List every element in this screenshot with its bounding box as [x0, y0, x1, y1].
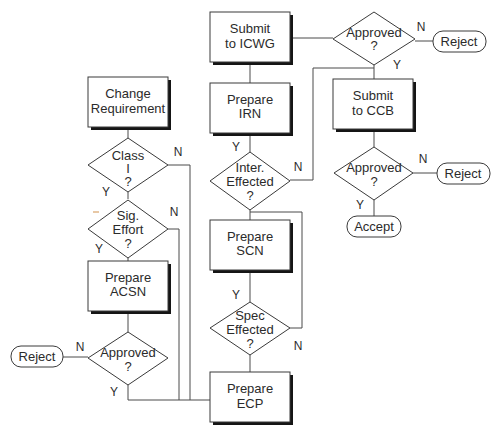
- svg-text:Approved: Approved: [346, 160, 402, 175]
- label-y-class: Y: [102, 185, 110, 199]
- svg-text:?: ?: [370, 174, 377, 189]
- svg-text:Submit: Submit: [353, 88, 394, 103]
- label-n-approved-acsn: N: [76, 340, 85, 354]
- svg-text:to CCB: to CCB: [352, 103, 394, 118]
- label-y-approved-acsn: Y: [110, 385, 118, 399]
- label-y-irn: Y: [232, 140, 240, 154]
- edge-sig-no: [168, 229, 179, 400]
- decision-approved-ccb: Approved ?: [334, 147, 413, 200]
- svg-text:Requirement: Requirement: [91, 101, 166, 116]
- svg-text:?: ?: [124, 174, 131, 189]
- label-n-approved-icwg: N: [417, 20, 426, 34]
- label-y-approved-icwg: Y: [393, 58, 401, 72]
- svg-text:Effected: Effected: [226, 322, 273, 337]
- decision-inter-effected: Inter. Effected ?: [210, 152, 290, 210]
- svg-text:ACSN: ACSN: [110, 284, 146, 299]
- svg-text:Submit: Submit: [230, 21, 271, 36]
- process-submit-ccb: Submit to CCB: [333, 79, 416, 132]
- svg-text:Sig.: Sig.: [117, 208, 139, 223]
- svg-text:Change: Change: [105, 86, 151, 101]
- label-y-approved-ccb: Y: [356, 198, 364, 212]
- svg-text:Effected: Effected: [226, 174, 273, 189]
- svg-text:Spec: Spec: [235, 308, 265, 323]
- svg-text:ECP: ECP: [237, 396, 264, 411]
- process-prepare-ecp: Prepare ECP: [210, 372, 293, 425]
- label-n-class: N: [174, 145, 183, 159]
- label-n-approved-ccb: N: [419, 152, 428, 166]
- svg-text:?: ?: [246, 188, 253, 203]
- terminal-reject-icwg: Reject: [433, 31, 486, 52]
- process-prepare-scn: Prepare SCN: [210, 220, 293, 273]
- svg-text:Prepare: Prepare: [105, 270, 151, 285]
- svg-text:IRN: IRN: [239, 106, 261, 121]
- process-change-requirement: Change Requirement: [88, 77, 171, 130]
- terminal-reject-ccb: Reject: [437, 163, 490, 184]
- svg-text:SCN: SCN: [236, 243, 263, 258]
- svg-text:Reject: Reject: [445, 166, 482, 181]
- process-prepare-acsn: Prepare ACSN: [88, 261, 171, 314]
- label-n-sig: N: [170, 205, 179, 219]
- svg-text:?: ?: [370, 38, 377, 53]
- svg-text:Prepare: Prepare: [227, 381, 273, 396]
- svg-text:Prepare: Prepare: [227, 229, 273, 244]
- svg-text:?: ?: [246, 336, 253, 351]
- svg-text:Accept: Accept: [354, 219, 394, 234]
- svg-text:Effort: Effort: [113, 222, 144, 237]
- decision-approved-acsn: Approved ?: [88, 332, 168, 385]
- svg-text:Inter.: Inter.: [236, 160, 265, 175]
- decision-class-i: Class I ?: [88, 138, 168, 192]
- edge-acsn-ecp: [128, 385, 210, 400]
- label-n-inter: N: [294, 160, 303, 174]
- flowchart: Submit to ICWG Submit to CCB Prepare IRN…: [0, 0, 499, 440]
- label-n-spec: N: [294, 339, 303, 353]
- svg-text:?: ?: [124, 236, 131, 251]
- svg-text:to ICWG: to ICWG: [225, 36, 275, 51]
- process-submit-icwg: Submit to ICWG: [210, 12, 293, 65]
- process-prepare-irn: Prepare IRN: [210, 83, 293, 136]
- svg-text:Approved: Approved: [100, 345, 156, 360]
- label-y-sig: Y: [95, 242, 103, 256]
- svg-text:Reject: Reject: [19, 349, 56, 364]
- terminal-accept: Accept: [347, 216, 401, 237]
- svg-text:?: ?: [124, 359, 131, 374]
- svg-text:Reject: Reject: [441, 34, 478, 49]
- decision-spec-effected: Spec Effected ?: [210, 302, 290, 355]
- label-y-scn: Y: [232, 288, 240, 302]
- decision-approved-icwg: Approved ?: [333, 12, 415, 65]
- terminal-reject-acsn: Reject: [11, 346, 63, 367]
- svg-text:Prepare: Prepare: [227, 92, 273, 107]
